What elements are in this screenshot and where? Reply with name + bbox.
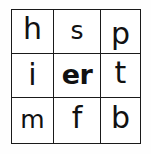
cell-letter: h <box>23 14 42 44</box>
grid-cell-r3c2[interactable]: f <box>54 98 101 143</box>
grid-cell-r1c2[interactable]: s <box>54 10 101 54</box>
cell-letter: p <box>111 19 130 49</box>
letter-grid: h s p i er t m <box>11 9 141 144</box>
grid-cell-r2c3[interactable]: t <box>101 54 140 98</box>
cell-letter: i <box>28 60 36 90</box>
cell-letter: b <box>111 103 130 133</box>
grid-cell-r1c3[interactable]: p <box>101 10 140 54</box>
cell-letter: m <box>20 107 44 132</box>
cell-letter-emphasised: er <box>62 61 93 88</box>
grid-cell-r2c1[interactable]: i <box>12 54 54 98</box>
grid-cell-r3c1[interactable]: m <box>12 98 54 143</box>
cell-letter: s <box>70 18 83 43</box>
grid-cell-r1c1[interactable]: h <box>12 10 54 54</box>
cell-letter: t <box>115 58 127 88</box>
figure-canvas: h s p i er t m <box>0 0 151 154</box>
grid-cell-r3c3[interactable]: b <box>101 98 140 143</box>
grid-cell-r2c2[interactable]: er <box>54 54 101 98</box>
cell-letter: f <box>72 103 83 133</box>
